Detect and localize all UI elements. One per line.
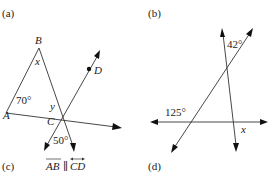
transversal-2: [223, 34, 236, 145]
right-figure: [150, 28, 268, 153]
angle-label-70: 70°: [16, 94, 31, 106]
arrowhead-t1-down: [171, 144, 178, 153]
point-label-b: B: [35, 34, 42, 46]
angle-label-y: y: [49, 100, 55, 112]
condition-cd: CD: [70, 160, 85, 172]
geometry-diagram: (a) (b) (c) (d) B x D 70° A y C 50° AB ∥…: [0, 0, 271, 178]
angle-label-42: 42°: [227, 38, 242, 50]
arrowhead-cd-down: [44, 142, 50, 151]
parallel-condition: AB ∥ CD: [45, 158, 85, 173]
panel-label-d: (d): [148, 160, 161, 173]
panel-label-a: (a): [2, 7, 15, 20]
arrowhead-t2-down: [233, 143, 239, 152]
arrowhead-horizontal-left: [150, 119, 158, 125]
arrowhead-t2-up: [220, 28, 225, 37]
condition-ab: AB: [45, 160, 60, 172]
point-label-a: A: [2, 109, 10, 121]
line-bc: [39, 48, 73, 146]
angle-label-x-left: x: [34, 55, 40, 67]
angle-label-x-right: x: [240, 123, 246, 135]
condition-parallel: ∥: [63, 160, 68, 172]
point-label-d: D: [93, 64, 102, 76]
angle-label-50: 50°: [53, 134, 68, 146]
point-d: [87, 67, 91, 71]
arrowhead-bc: [70, 143, 76, 152]
arrowhead-ac: [112, 123, 122, 130]
angle-label-125: 125°: [165, 106, 186, 118]
transversal-1: [174, 33, 250, 148]
panel-label-b: (b): [148, 7, 161, 20]
arrowhead-t1-up: [246, 28, 253, 37]
arrowhead-cd-up: [94, 50, 100, 59]
panel-label-c: (c): [2, 160, 15, 173]
arrowhead-horizontal-right: [260, 119, 268, 125]
point-label-c: C: [47, 115, 55, 127]
